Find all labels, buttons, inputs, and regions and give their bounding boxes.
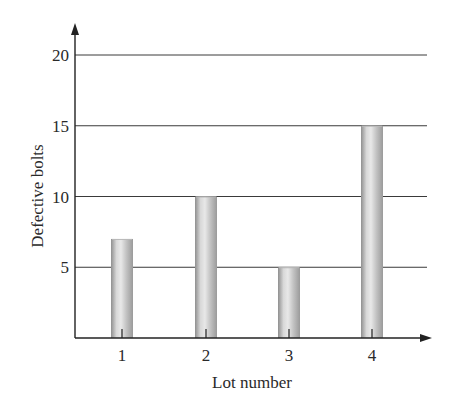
bar-chart: 5101520 1234 Lot number Defective bolts (0, 0, 450, 409)
x-tick-label: 4 (368, 346, 377, 365)
y-tick-label: 15 (52, 117, 69, 136)
x-axis-arrow-icon (420, 334, 432, 342)
bar-lot-3 (278, 267, 300, 338)
x-tick-label: 2 (202, 346, 211, 365)
y-tick-labels: 5101520 (52, 46, 69, 277)
y-tick-label: 5 (61, 258, 70, 277)
bar-lot-2 (195, 197, 217, 339)
bar-lot-4 (361, 126, 383, 338)
bar-lot-1 (111, 239, 133, 338)
bars (111, 126, 383, 338)
x-tick-labels: 1234 (118, 346, 377, 365)
y-tick-label: 10 (52, 188, 69, 207)
x-tick-label: 3 (285, 346, 294, 365)
y-axis-arrow-icon (71, 23, 79, 35)
y-tick-label: 20 (52, 46, 69, 65)
x-tick-label: 1 (118, 346, 127, 365)
x-axis-label: Lot number (212, 373, 292, 392)
y-axis-label: Defective bolts (28, 144, 47, 247)
